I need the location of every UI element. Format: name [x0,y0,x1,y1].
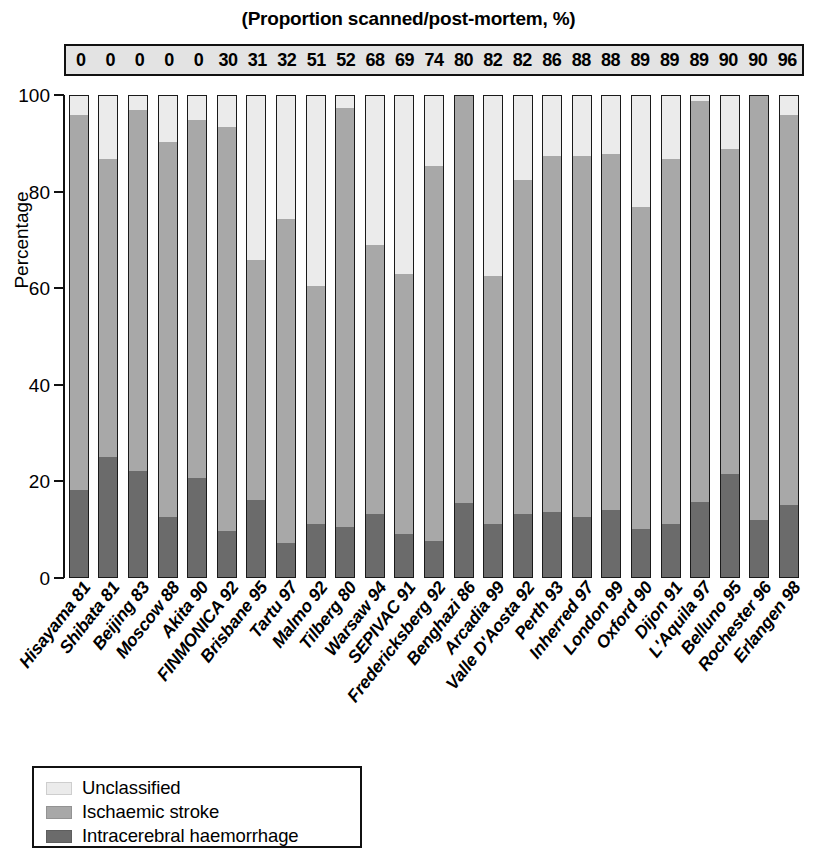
chart-legend: UnclassifiedIschaemic strokeIntracerebra… [32,766,362,848]
legend-item: Unclassified [46,776,360,800]
proportion-scanned-value: 89 [684,51,713,69]
y-axis-tick [54,191,64,193]
table-row [749,95,769,578]
segment-unclassified [632,96,650,207]
table-row [690,95,710,578]
table-row [276,95,296,578]
segment-unclassified [543,96,561,156]
proportion-scanned-value: 82 [478,51,507,69]
proportion-scanned-value: 0 [95,51,124,69]
proportion-scanned-value: 80 [449,51,478,69]
segment-intracerebral-haemorrhage [159,517,177,577]
segment-unclassified [129,96,147,110]
proportion-scanned-value: 89 [655,51,684,69]
table-row [217,95,237,578]
y-axis-tick-label: 20 [4,472,50,491]
segment-unclassified [247,96,265,260]
y-axis-tick [54,577,64,579]
bar-slot [64,95,94,578]
segment-intracerebral-haemorrhage [780,505,798,577]
bar-slot [745,95,775,578]
segment-intracerebral-haemorrhage [129,471,147,577]
bar-slot [330,95,360,578]
plot-area: 100806040200 [64,95,804,578]
segment-unclassified [602,96,620,154]
proportion-scanned-value: 32 [272,51,301,69]
legend-swatch [46,782,72,795]
table-row [454,95,474,578]
segment-intracerebral-haemorrhage [366,514,384,577]
table-row [158,95,178,578]
proportion-scanned-value: 31 [243,51,272,69]
segment-ischaemic-stroke [188,120,206,478]
table-row [661,95,681,578]
table-row [483,95,503,578]
table-row [631,95,651,578]
y-axis-tick [54,94,64,96]
table-row [306,95,326,578]
bar-slot [182,95,212,578]
segment-ischaemic-stroke [307,286,325,524]
proportion-scanned-header: 0000030313251526869748082828688888989899… [64,44,804,76]
segment-unclassified [277,96,295,219]
table-row [98,95,118,578]
segment-ischaemic-stroke [484,276,502,524]
segment-intracerebral-haemorrhage [188,478,206,577]
segment-unclassified [662,96,680,159]
bar-slot [508,95,538,578]
segment-ischaemic-stroke [455,96,473,503]
bar-slot [94,95,124,578]
segment-ischaemic-stroke [632,207,650,529]
y-axis-title: Percentage [11,191,33,288]
bar-slot [271,95,301,578]
segment-intracerebral-haemorrhage [602,510,620,577]
proportion-scanned-value: 88 [566,51,595,69]
segment-unclassified [395,96,413,274]
table-row [69,95,89,578]
legend-label: Ischaemic stroke [82,803,219,822]
y-axis-tick [54,287,64,289]
segment-ischaemic-stroke [514,180,532,514]
segment-ischaemic-stroke [366,245,384,514]
segment-ischaemic-stroke [395,274,413,534]
table-row [601,95,621,578]
segment-intracerebral-haemorrhage [307,524,325,577]
segment-intracerebral-haemorrhage [662,524,680,577]
table-row [779,95,799,578]
bar-slot [123,95,153,578]
bar-slot [656,95,686,578]
segment-unclassified [99,96,117,159]
segment-intracerebral-haemorrhage [336,527,354,578]
segment-unclassified [159,96,177,142]
bar-slot [301,95,331,578]
segment-ischaemic-stroke [721,149,739,474]
segment-intracerebral-haemorrhage [70,490,88,577]
chart-top-title: (Proportion scanned/post-mortem, %) [0,8,817,30]
bar-slot [538,95,568,578]
segment-intracerebral-haemorrhage [514,514,532,577]
segment-ischaemic-stroke [602,154,620,510]
proportion-scanned-value: 88 [596,51,625,69]
y-axis-tick [54,480,64,482]
bar-slot [242,95,272,578]
segment-ischaemic-stroke [129,110,147,471]
segment-unclassified [70,96,88,115]
segment-ischaemic-stroke [750,96,768,520]
segment-ischaemic-stroke [336,108,354,526]
bar-slot [449,95,479,578]
legend-swatch [46,830,72,843]
segment-ischaemic-stroke [99,159,117,457]
segment-intracerebral-haemorrhage [99,457,117,577]
table-row [187,95,207,578]
segment-ischaemic-stroke [543,156,561,512]
proportion-scanned-value: 51 [302,51,331,69]
y-axis-tick-label: 40 [4,375,50,394]
bar-slot [685,95,715,578]
segment-unclassified [514,96,532,180]
proportion-scanned-value: 0 [184,51,213,69]
legend-item: Intracerebral haemorrhage [46,824,360,848]
segment-ischaemic-stroke [691,101,709,503]
segment-unclassified [425,96,443,166]
bar-slot [390,95,420,578]
segment-intracerebral-haemorrhage [484,524,502,577]
